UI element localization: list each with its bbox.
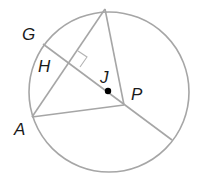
right-angle-marker: [78, 51, 87, 67]
label-h: H: [38, 57, 51, 76]
label-a: A: [13, 120, 25, 139]
geometry-diagram: G H J P A: [0, 0, 197, 189]
point-j-dot: [105, 88, 111, 94]
segment-a-to-p: [32, 105, 124, 117]
label-g: G: [22, 25, 35, 44]
label-p: P: [131, 85, 143, 104]
label-j: J: [99, 68, 109, 87]
